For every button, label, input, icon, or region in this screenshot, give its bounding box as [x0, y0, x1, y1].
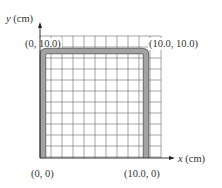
x-axis-label: x (cm) [177, 153, 206, 165]
point-label-origin: (0, 0) [31, 168, 54, 180]
y-axis-label: y (cm) [5, 13, 34, 25]
y-axis-arrow-icon [38, 22, 42, 28]
u-rod [43, 51, 146, 158]
point-label-top-right: (10.0, 10.0) [149, 38, 198, 50]
x-axis-arrow-icon [169, 156, 175, 160]
point-label-bottom-right: (10.0, 0) [124, 168, 160, 180]
coordinate-diagram: y (cm) x (cm) (0, 10.0) (10.0, 10.0) (0,… [0, 0, 222, 188]
diagram-container: y (cm) x (cm) (0, 10.0) (10.0, 10.0) (0,… [0, 0, 222, 188]
point-label-top-left: (0, 10.0) [25, 38, 61, 50]
